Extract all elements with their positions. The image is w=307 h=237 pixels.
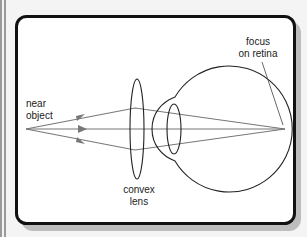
label-object: object — [26, 110, 53, 121]
label-on-retina: on retina — [239, 48, 278, 59]
label-focus: focus — [246, 36, 270, 47]
eye-lens-diagram: near object convex lens focus on retina — [0, 0, 307, 237]
label-near: near — [26, 98, 47, 109]
label-lens: lens — [130, 196, 148, 207]
label-convex: convex — [123, 184, 155, 195]
